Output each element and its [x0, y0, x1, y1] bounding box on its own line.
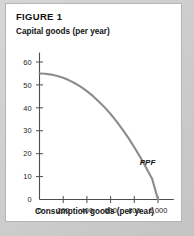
y-axis-tick-label: 0 [10, 195, 32, 204]
x-axis-label: Consumption goods (per year) [6, 207, 182, 216]
y-axis-tick-label: 10 [10, 172, 32, 181]
chart-svg [6, 4, 182, 222]
y-axis-tick-label: 20 [10, 149, 32, 158]
figure-panel: FIGURE 1 Capital goods (per year) 010203… [5, 3, 182, 222]
ppf-curve-label: PPF [140, 158, 156, 167]
figure-container: FIGURE 1 Capital goods (per year) 010203… [0, 0, 194, 236]
y-axis-tick-label: 60 [10, 58, 32, 67]
y-axis-tick-label: 50 [10, 81, 32, 90]
ppf-curve [40, 73, 159, 199]
plot-area: 010203040506002004006008001,000 PPF [6, 4, 182, 222]
y-axis-tick-label: 30 [10, 126, 32, 135]
y-axis-tick-label: 40 [10, 104, 32, 113]
data-series [40, 73, 159, 199]
